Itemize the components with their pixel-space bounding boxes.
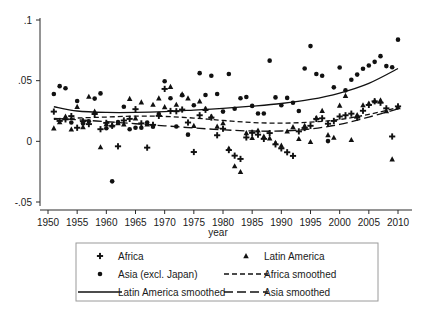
data-point-circle — [110, 179, 115, 184]
y-tick-label: .1 — [24, 15, 33, 26]
legend-label-latin-america-smoothed: Latin America smoothed — [118, 287, 225, 298]
legend-label-africa: Africa — [118, 251, 144, 262]
data-point-circle — [215, 92, 220, 97]
data-point-circle — [267, 58, 272, 63]
data-point-circle — [314, 72, 319, 77]
data-point-circle — [221, 109, 226, 114]
data-point-circle — [320, 74, 325, 79]
data-point-circle — [361, 66, 366, 71]
data-point-circle — [349, 77, 354, 82]
data-point-circle — [367, 63, 372, 68]
data-point-circle — [192, 103, 197, 108]
x-tick-label: 1985 — [241, 217, 264, 228]
data-point-circle — [337, 65, 342, 70]
x-tick-label: 1950 — [37, 217, 60, 228]
data-point-circle — [197, 71, 202, 76]
data-point-circle — [209, 74, 214, 79]
data-point-circle — [332, 85, 337, 90]
x-axis-title: year — [208, 227, 228, 238]
legend-symbol-circle-icon — [98, 272, 103, 277]
data-point-circle — [285, 96, 290, 101]
data-point-circle — [355, 72, 360, 77]
data-point-circle — [162, 79, 167, 84]
data-point-circle — [390, 65, 395, 70]
chart-figure: -.050.05.1 19501955196019651970197519801… — [0, 0, 426, 310]
x-tick-label: 1960 — [95, 217, 118, 228]
scatter-plot-svg: -.050.05.1 19501955196019651970197519801… — [0, 0, 426, 310]
data-point-circle — [227, 72, 232, 77]
data-point-circle — [262, 111, 267, 116]
data-point-circle — [297, 109, 302, 114]
data-point-circle — [75, 99, 80, 104]
data-point-circle — [256, 111, 261, 116]
data-point-circle — [69, 120, 74, 125]
x-tick-label: 1995 — [299, 217, 322, 228]
data-point-circle — [168, 96, 173, 101]
x-tick-label: 1970 — [154, 217, 177, 228]
legend-label-asia-smoothed: Asia smoothed — [264, 287, 330, 298]
y-tick-label: -.05 — [15, 197, 33, 208]
data-point-circle — [384, 64, 389, 69]
x-tick-label: 1955 — [66, 217, 89, 228]
y-tick-label: .05 — [18, 75, 32, 86]
data-point-circle — [378, 54, 383, 59]
data-point-circle — [396, 37, 401, 42]
data-point-circle — [98, 272, 103, 277]
data-point-circle — [308, 44, 313, 49]
x-tick-label: 1975 — [183, 217, 206, 228]
x-tick-label: 2005 — [358, 217, 381, 228]
legend-label-africa-smoothed: Africa smoothed — [264, 269, 336, 280]
data-point-circle — [133, 125, 138, 130]
data-point-circle — [244, 95, 249, 100]
data-point-circle — [372, 60, 377, 65]
x-tick-label: 1990 — [270, 217, 293, 228]
data-point-circle — [57, 84, 62, 89]
x-tick-label: 1965 — [124, 217, 147, 228]
data-point-circle — [63, 86, 68, 91]
data-point-circle — [302, 66, 307, 71]
data-point-circle — [92, 96, 97, 101]
legend-label-latin-america: Latin America — [264, 251, 325, 262]
data-point-circle — [127, 127, 132, 132]
data-point-circle — [186, 132, 191, 137]
data-point-circle — [104, 126, 109, 131]
x-tick-label: 2000 — [329, 217, 352, 228]
data-point-circle — [122, 104, 127, 109]
data-point-circle — [273, 95, 278, 100]
y-tick-label: 0 — [26, 136, 32, 147]
chart-legend: AfricaLatin AmericaAsia (excl. Japan)Afr… — [76, 243, 378, 301]
data-point-circle — [98, 91, 103, 96]
data-point-circle — [52, 92, 57, 97]
data-point-circle — [326, 139, 331, 144]
legend-label-asia-excl-japan: Asia (excl. Japan) — [118, 269, 197, 280]
data-point-circle — [203, 93, 208, 98]
data-point-circle — [139, 125, 144, 130]
x-tick-label: 2010 — [387, 217, 410, 228]
data-point-circle — [87, 119, 92, 124]
data-point-circle — [238, 96, 243, 101]
